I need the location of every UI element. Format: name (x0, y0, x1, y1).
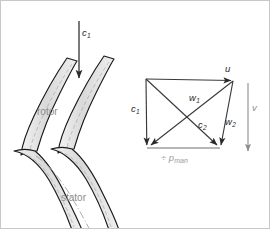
c2-vector-label: c2 (198, 120, 206, 130)
u-vector-label: u (225, 64, 230, 74)
c2-vector-arrow (146, 79, 217, 145)
v-vector-label: v (252, 103, 257, 113)
w2-vector-arrow (221, 81, 233, 145)
division-symbol: ÷ (161, 152, 166, 163)
w1-vector-arrow (151, 81, 233, 145)
u-vector-arrow (146, 79, 231, 81)
c1-triangle-label: c1 (131, 104, 139, 114)
figure-canvas: c1 rotor stator u c1 w1 c2 w2 v ÷ pman (0, 0, 270, 229)
stator-label: stator (61, 193, 86, 203)
c1-vector-arrow (146, 79, 147, 145)
w1-vector-label: w1 (189, 93, 200, 103)
manometric-pressure-label: ÷ pman (161, 153, 188, 163)
inlet-velocity-label: c1 (82, 28, 90, 38)
w2-vector-label: w2 (225, 117, 236, 127)
rotor-label: rotor (37, 107, 58, 117)
